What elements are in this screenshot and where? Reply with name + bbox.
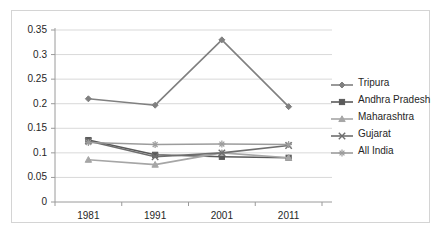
legend-item-gujarat[interactable]: Gujarat: [330, 125, 434, 142]
y-tick-label: 0.15: [19, 123, 47, 133]
legend-marker: [339, 149, 346, 156]
y-tick-label: 0.25: [19, 74, 47, 84]
legend-marker: [339, 99, 344, 104]
legend-label: Tripura: [358, 77, 389, 88]
series-maharashtra: [85, 150, 292, 168]
data-point: [218, 141, 225, 148]
legend-label: Andhra Pradesh: [358, 94, 430, 105]
series-line: [88, 143, 288, 145]
data-point: [85, 96, 91, 102]
data-point: [85, 139, 92, 146]
y-tick-label: 0.3: [19, 50, 47, 60]
legend-swatch-cross-icon: [330, 128, 354, 140]
x-tick-label: 2011: [269, 211, 309, 221]
y-tick-label: 0.05: [19, 172, 47, 182]
legend-swatch-diamond-icon: [330, 77, 354, 89]
series-tripura: [85, 37, 291, 110]
legend-label: Gujarat: [358, 128, 391, 139]
legend-label: Maharashtra: [358, 111, 414, 122]
legend-item-maharashtra[interactable]: Maharashtra: [330, 108, 434, 125]
legend-item-tripura[interactable]: Tripura: [330, 74, 434, 91]
legend-item-all-india[interactable]: All India: [330, 142, 434, 159]
data-point: [285, 141, 292, 148]
series-line: [88, 40, 288, 107]
data-point: [152, 141, 159, 148]
y-tick-label: 0.35: [19, 25, 47, 35]
x-tick-label: 2001: [202, 211, 242, 221]
legend-swatch-star-icon: [330, 145, 354, 157]
y-tick-label: 0.2: [19, 99, 47, 109]
y-tick-label: 0.1: [19, 148, 47, 158]
chart-legend: TripuraAndhra PradeshMaharashtraGujaratA…: [330, 74, 434, 159]
legend-swatch-triangle-icon: [330, 111, 354, 123]
x-tick-label: 1991: [135, 211, 175, 221]
legend-swatch-square-icon: [330, 94, 354, 106]
y-tick-label: 0: [19, 197, 47, 207]
legend-label: All India: [358, 145, 394, 156]
legend-item-andhra-pradesh[interactable]: Andhra Pradesh: [330, 91, 434, 108]
x-tick-label: 1981: [68, 211, 108, 221]
legend-marker: [339, 82, 345, 88]
